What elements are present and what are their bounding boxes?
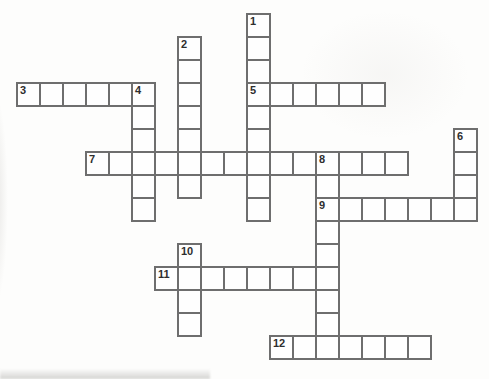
crossword-cell[interactable]: [269, 151, 294, 176]
crossword-cell-6[interactable]: 6: [453, 128, 478, 153]
crossword-cell[interactable]: [246, 36, 271, 61]
crossword-cell-5[interactable]: 5: [246, 82, 271, 107]
cell-number: 11: [158, 268, 170, 281]
crossword-cell[interactable]: [85, 82, 110, 107]
crossword-cell[interactable]: [315, 266, 340, 291]
cell-number: 4: [135, 84, 141, 97]
crossword-cell[interactable]: [338, 82, 363, 107]
scan-smudge: [0, 90, 8, 310]
crossword-cell[interactable]: [361, 151, 386, 176]
crossword-cell[interactable]: [177, 59, 202, 84]
cell-number: 7: [89, 153, 95, 166]
crossword-cell[interactable]: [177, 312, 202, 337]
crossword-cell[interactable]: [269, 266, 294, 291]
crossword-cell-1[interactable]: 1: [246, 13, 271, 38]
crossword-cell[interactable]: [246, 174, 271, 199]
crossword-cell[interactable]: [315, 289, 340, 314]
cell-number: 5: [250, 84, 256, 97]
crossword-cell[interactable]: [338, 197, 363, 222]
crossword-cell[interactable]: [338, 335, 363, 360]
crossword-cell[interactable]: [453, 151, 478, 176]
crossword-cell[interactable]: [315, 312, 340, 337]
crossword-cell[interactable]: [338, 151, 363, 176]
crossword-cell[interactable]: [315, 335, 340, 360]
crossword-cell[interactable]: [384, 151, 409, 176]
crossword-cell-11[interactable]: 11: [154, 266, 179, 291]
crossword-cell[interactable]: [246, 59, 271, 84]
crossword-cell[interactable]: [453, 197, 478, 222]
cell-number: 12: [273, 337, 285, 350]
crossword-cell[interactable]: [361, 335, 386, 360]
cell-number: 9: [319, 199, 325, 212]
crossword-cell[interactable]: [108, 82, 133, 107]
cell-number: 6: [457, 130, 463, 143]
crossword-cell[interactable]: [223, 266, 248, 291]
crossword-cell[interactable]: [269, 82, 294, 107]
crossword-cell[interactable]: [407, 197, 432, 222]
crossword-cell[interactable]: [108, 151, 133, 176]
crossword-cell-8[interactable]: 8: [315, 151, 340, 176]
crossword-cell[interactable]: [246, 266, 271, 291]
crossword-cell[interactable]: [177, 105, 202, 130]
crossword-cell[interactable]: [292, 335, 317, 360]
crossword-cell[interactable]: [223, 151, 248, 176]
crossword-cell[interactable]: [131, 151, 156, 176]
crossword-cell[interactable]: [246, 197, 271, 222]
crossword-cell[interactable]: [177, 82, 202, 107]
crossword-cell[interactable]: [39, 82, 64, 107]
crossword-cell[interactable]: [384, 335, 409, 360]
crossword-cell[interactable]: [177, 174, 202, 199]
crossword-cell[interactable]: [246, 151, 271, 176]
scan-smudge: [300, 10, 470, 140]
crossword-cell[interactable]: [315, 174, 340, 199]
crossword-cell-10[interactable]: 10: [177, 243, 202, 268]
crossword-grid: 152346789101112: [0, 0, 489, 379]
crossword-cell[interactable]: [292, 266, 317, 291]
crossword-cell[interactable]: [430, 197, 455, 222]
crossword-cell[interactable]: [62, 82, 87, 107]
crossword-cell[interactable]: [200, 266, 225, 291]
crossword-cell[interactable]: [177, 289, 202, 314]
crossword-cell[interactable]: [453, 174, 478, 199]
crossword-cell[interactable]: [292, 82, 317, 107]
crossword-cell[interactable]: [292, 151, 317, 176]
crossword-cell-3[interactable]: 3: [16, 82, 41, 107]
crossword-cell[interactable]: [131, 197, 156, 222]
crossword-cell[interactable]: [361, 197, 386, 222]
crossword-cell[interactable]: [407, 335, 432, 360]
crossword-cell-4[interactable]: 4: [131, 82, 156, 107]
crossword-cell[interactable]: [200, 151, 225, 176]
crossword-cell[interactable]: [177, 151, 202, 176]
crossword-cell[interactable]: [131, 128, 156, 153]
scan-smudge: [0, 366, 210, 379]
crossword-cell[interactable]: [131, 105, 156, 130]
crossword-cell[interactable]: [177, 128, 202, 153]
cell-number: 10: [181, 245, 193, 258]
crossword-cell[interactable]: [154, 151, 179, 176]
crossword-cell[interactable]: [361, 82, 386, 107]
crossword-cell-9[interactable]: 9: [315, 197, 340, 222]
cell-number: 8: [319, 153, 325, 166]
crossword-cell[interactable]: [131, 174, 156, 199]
crossword-cell[interactable]: [246, 128, 271, 153]
cell-number: 3: [20, 84, 26, 97]
crossword-cell[interactable]: [315, 243, 340, 268]
crossword-cell[interactable]: [384, 197, 409, 222]
crossword-cell[interactable]: [315, 82, 340, 107]
cell-number: 2: [181, 38, 187, 51]
crossword-cell-7[interactable]: 7: [85, 151, 110, 176]
crossword-cell[interactable]: [177, 266, 202, 291]
crossword-cell-2[interactable]: 2: [177, 36, 202, 61]
cell-number: 1: [250, 15, 256, 28]
crossword-cell[interactable]: [315, 220, 340, 245]
crossword-cell[interactable]: [246, 105, 271, 130]
crossword-cell-12[interactable]: 12: [269, 335, 294, 360]
